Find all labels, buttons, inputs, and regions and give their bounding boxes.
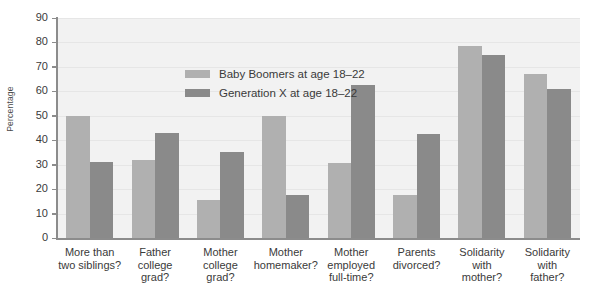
legend-item: Baby Boomers at age 18–22 <box>185 66 365 81</box>
y-axis-tick-label: 10 <box>36 207 48 219</box>
tick-mark <box>52 115 57 117</box>
chart-legend: Baby Boomers at age 18–22 Generation X a… <box>185 66 365 104</box>
bar <box>393 195 417 238</box>
y-axis-tick-label: 90 <box>36 11 48 23</box>
bar-chart: Percentage Baby Boomers at age 18–22 Gen… <box>0 0 605 297</box>
y-axis-tick-label: 50 <box>36 109 48 121</box>
y-axis-tick-label: 30 <box>36 158 48 170</box>
x-axis-category-label: Solidaritywithmother? <box>449 246 514 284</box>
x-axis-category-label: Motheremployedfull-time? <box>319 246 384 284</box>
tick-mark <box>52 66 57 68</box>
y-axis-tick-label: 70 <box>36 60 48 72</box>
plot-area: Baby Boomers at age 18–22 Generation X a… <box>57 18 580 238</box>
bar <box>328 163 352 238</box>
y-axis-tick-label: 80 <box>36 35 48 47</box>
x-axis-line <box>56 238 580 240</box>
x-axis-category-label: Fathercollegegrad? <box>122 246 187 284</box>
tick-mark <box>52 189 57 191</box>
gridline <box>57 18 580 19</box>
bar <box>286 195 310 238</box>
legend-label: Generation X at age 18–22 <box>219 87 357 99</box>
bar <box>155 133 179 238</box>
bar <box>524 74 548 238</box>
x-axis-category-label: Motherhomemaker? <box>253 246 318 271</box>
bar <box>482 55 506 238</box>
bar <box>351 85 375 238</box>
bar <box>547 89 571 238</box>
tick-mark <box>52 238 57 240</box>
legend-item: Generation X at age 18–22 <box>185 85 365 100</box>
tick-mark <box>52 42 57 44</box>
bar <box>90 162 114 238</box>
tick-mark <box>52 140 57 142</box>
tick-mark <box>52 91 57 93</box>
x-axis-category-label: More thantwo siblings? <box>57 246 122 271</box>
y-axis-tick-label: 20 <box>36 182 48 194</box>
bar <box>220 152 244 238</box>
x-axis-category-label: Parentsdivorced? <box>384 246 449 271</box>
y-axis-line <box>56 17 58 239</box>
y-axis-tick-label: 0 <box>42 231 48 243</box>
bar <box>132 160 156 238</box>
y-axis-tick-label: 40 <box>36 133 48 145</box>
x-axis-category-label: Solidaritywithfather? <box>515 246 580 284</box>
tick-mark <box>52 164 57 166</box>
bar <box>66 116 90 238</box>
tick-mark <box>52 18 57 20</box>
legend-swatch-icon <box>185 70 210 78</box>
legend-swatch-icon <box>185 89 210 97</box>
bar <box>197 200 221 238</box>
bar <box>417 134 441 238</box>
bar <box>262 116 286 238</box>
y-axis-tick-label: 60 <box>36 84 48 96</box>
bar <box>458 46 482 238</box>
gridline <box>57 42 580 43</box>
tick-mark <box>52 213 57 215</box>
y-axis-title: Percentage <box>5 69 15 149</box>
legend-label: Baby Boomers at age 18–22 <box>219 68 365 80</box>
x-axis-category-label: Mothercollegegrad? <box>188 246 253 284</box>
